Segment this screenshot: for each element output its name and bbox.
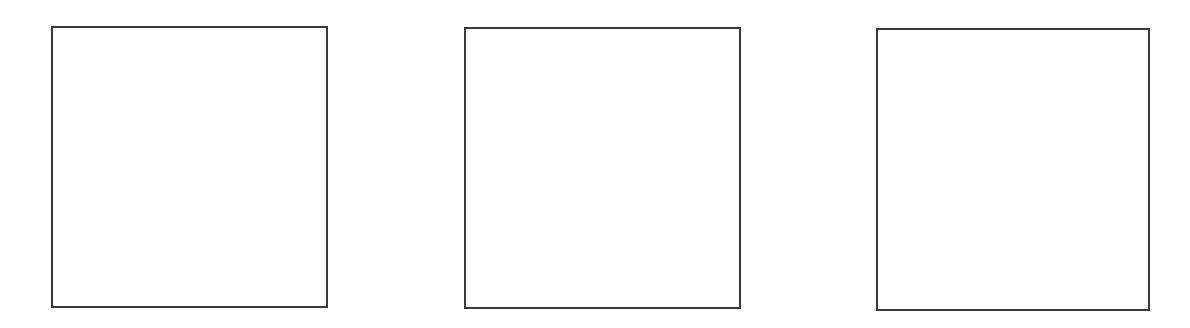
empty-frame-right [876,28,1150,311]
empty-frame-middle [464,27,741,309]
empty-frame-left [51,26,328,308]
diagram-canvas [0,0,1190,328]
